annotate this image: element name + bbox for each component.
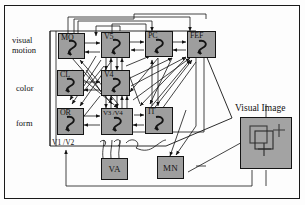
node-fef[interactable]: FEF bbox=[187, 31, 216, 58]
node-cl[interactable]: CL bbox=[57, 70, 84, 96]
top-feedback-arcs bbox=[68, 14, 206, 38]
crosshair-icon bbox=[258, 143, 271, 156]
square-outline-icon bbox=[250, 126, 267, 143]
crosshair-icon bbox=[273, 124, 285, 137]
box-mn[interactable]: MN bbox=[157, 156, 184, 179]
row-label-form-line1: form bbox=[16, 119, 33, 129]
row-label-form: form bbox=[16, 119, 33, 129]
node-or[interactable]: OR bbox=[57, 108, 84, 135]
node-it-label: IT bbox=[148, 108, 155, 116]
row-label-visual-motion: visual motion bbox=[12, 36, 36, 55]
box-mn-label: MN bbox=[163, 163, 178, 173]
node-v3-v4[interactable]: V3 /V4 bbox=[101, 108, 133, 135]
node-pc-label: PC bbox=[148, 32, 157, 40]
box-va[interactable]: VA bbox=[101, 158, 128, 180]
node-mo[interactable]: MO bbox=[58, 33, 85, 59]
node-or-label: OR bbox=[60, 109, 71, 117]
diagram-canvas: visual motion color form MO V5 PC FEF bbox=[0, 0, 305, 205]
node-pc[interactable]: PC bbox=[145, 31, 173, 57]
row-label-visual-motion-line2: motion bbox=[12, 46, 36, 56]
row-label-color-line1: color bbox=[16, 84, 33, 94]
node-v5[interactable]: V5 bbox=[101, 32, 130, 58]
visual-image-title: Visual Image bbox=[235, 103, 285, 113]
visual-image-panel[interactable] bbox=[240, 117, 292, 169]
node-cl-label: CL bbox=[60, 71, 70, 79]
area-label-v1-v2: V1 /V2 bbox=[52, 138, 74, 147]
visual-image-content bbox=[241, 118, 293, 170]
node-v4[interactable]: V4 bbox=[101, 70, 130, 96]
row-label-color: color bbox=[16, 84, 33, 94]
node-it[interactable]: IT bbox=[145, 107, 173, 134]
node-v5-label: V5 bbox=[104, 33, 113, 41]
mn-to-visual-image bbox=[188, 140, 246, 172]
node-v4-label: V4 bbox=[104, 71, 113, 79]
node-mo-label: MO bbox=[61, 34, 74, 42]
v1v2-column-divider bbox=[50, 31, 56, 146]
box-va-label: VA bbox=[108, 164, 120, 174]
node-fef-label: FEF bbox=[190, 32, 203, 40]
node-v3-v4-label: V3 /V4 bbox=[103, 109, 123, 117]
